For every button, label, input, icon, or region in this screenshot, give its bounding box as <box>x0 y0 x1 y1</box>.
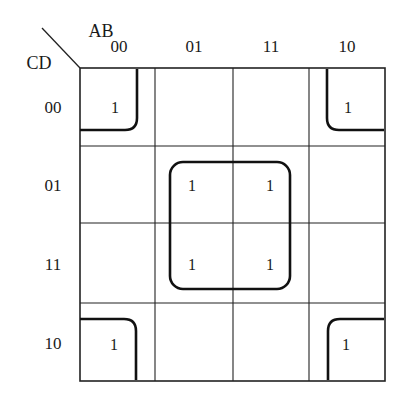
col-label-11: 11 <box>263 38 279 55</box>
row-label-10: 10 <box>45 335 62 352</box>
cell-r0-c3: 1 <box>344 100 352 116</box>
col-label-10: 10 <box>339 38 356 55</box>
cell-r3-c0: 1 <box>110 337 118 353</box>
row-label-01: 01 <box>45 177 62 194</box>
row-variable-label: CD <box>26 54 51 72</box>
cell-r1-c1: 1 <box>188 178 196 194</box>
cell-r2-c2: 1 <box>266 257 274 273</box>
col-label-00: 00 <box>111 38 128 55</box>
group-corner-bottom-left <box>80 319 136 380</box>
row-label-11: 11 <box>45 256 61 273</box>
group-corner-top-left <box>80 69 137 130</box>
group-corner-bottom-right <box>328 319 384 380</box>
cell-r0-c0: 1 <box>111 100 119 116</box>
row-label-00: 00 <box>45 99 62 116</box>
cell-r2-c1: 1 <box>188 257 196 273</box>
cell-r3-c3: 1 <box>342 337 350 353</box>
group-corner-top-right <box>327 69 384 130</box>
col-label-01: 01 <box>186 38 203 55</box>
cell-r1-c2: 1 <box>266 178 274 194</box>
